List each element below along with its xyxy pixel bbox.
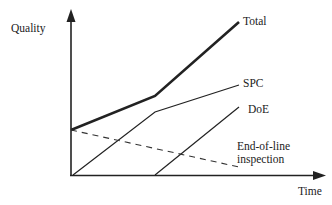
- y-axis-arrow-icon: [67, 9, 76, 22]
- quality-time-diagram: [0, 0, 332, 205]
- y-axis-label: Quality: [11, 22, 46, 35]
- label-total: Total: [243, 15, 266, 28]
- series-end-of-line-inspection: [71, 130, 239, 167]
- series-doe: [155, 107, 239, 175]
- label-spc: SPC: [243, 77, 263, 90]
- label-end-of-line-line2: inspection: [237, 153, 284, 166]
- x-axis-label: Time: [298, 185, 322, 198]
- x-axis-arrow-icon: [313, 171, 326, 180]
- label-end-of-line-line1: End-of-line: [237, 140, 290, 153]
- label-doe: DoE: [248, 103, 269, 116]
- series-total: [71, 22, 239, 130]
